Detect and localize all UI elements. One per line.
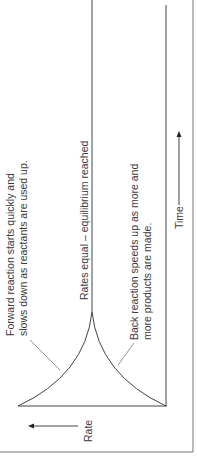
- forward-annotation-line1: Forward reaction starts quickly and: [4, 173, 16, 336]
- equilibrium-label: Rates equal – equilibrium reached: [78, 140, 90, 300]
- rate-arrow-icon: [28, 424, 78, 429]
- back-annotation-line2: more products are made.: [141, 223, 153, 340]
- rate-axis-label: Rate: [82, 420, 94, 442]
- forward-leader-line: [30, 340, 60, 370]
- forward-annotation-line2: slows down as reactants are used up.: [17, 160, 29, 336]
- equilibrium-diagram: Rate Time Rates equal – equilibrium reac…: [0, 0, 197, 461]
- back-leader-line: [118, 343, 134, 365]
- time-arrow-icon: [177, 131, 182, 205]
- time-axis-label: Time: [173, 206, 185, 229]
- forward-reaction-curve: [18, 312, 92, 406]
- back-annotation-line1: Back reaction speeds up as more and: [128, 164, 140, 340]
